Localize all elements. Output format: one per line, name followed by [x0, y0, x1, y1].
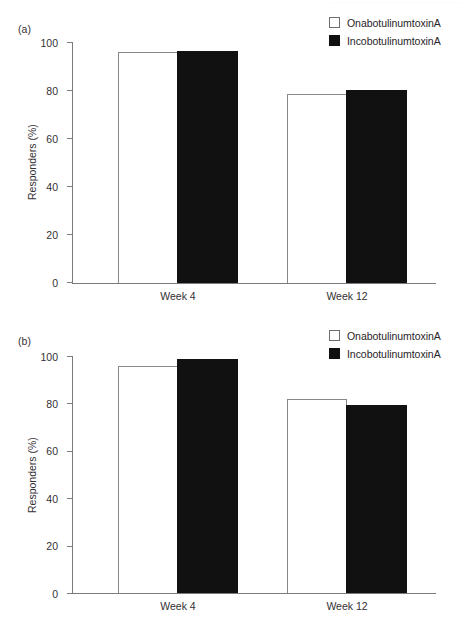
scan-artifact-line [330, 2, 462, 3]
legend-label: OnabotulinumtoxinA [347, 17, 441, 29]
y-tick-20: 20 [67, 234, 72, 235]
y-tick-label: 100 [40, 351, 58, 363]
y-tick-100: 100 [67, 356, 72, 357]
legend-item-onabotulinumtoxina: OnabotulinumtoxinA [329, 328, 441, 343]
y-tick-label: 60 [46, 133, 58, 145]
chart-panel-a: (a) OnabotulinumtoxinA Incobotulinumtoxi… [0, 0, 468, 310]
plot-area-b: 100 80 60 40 20 0 [72, 356, 436, 593]
bar-week12-onabotulinumtoxina [287, 94, 347, 283]
y-tick-label: 0 [52, 277, 58, 289]
y-tick-label: 20 [46, 540, 58, 552]
open-square-swatch [329, 330, 340, 341]
x-axis-line [72, 283, 436, 284]
y-axis-label: Responders (%) [26, 124, 38, 200]
y-axis-label: Responders (%) [26, 437, 38, 513]
y-axis-line [72, 356, 73, 593]
y-tick-label: 100 [40, 37, 58, 49]
y-tick-label: 20 [46, 229, 58, 241]
x-category-label-week-4: Week 4 [160, 600, 195, 612]
y-tick-label: 80 [46, 85, 58, 97]
y-tick-label: 40 [46, 493, 58, 505]
bar-week4-onabotulinumtoxina [118, 52, 178, 283]
y-axis-line [72, 42, 73, 283]
y-tick-label: 0 [52, 588, 58, 600]
y-tick-80: 80 [67, 403, 72, 404]
plot-area-a: 100 80 60 40 20 0 [72, 42, 436, 283]
open-square-swatch [329, 17, 340, 28]
x-axis-line [72, 593, 436, 594]
legend-label: OnabotulinumtoxinA [347, 330, 441, 342]
y-tick-100: 100 [67, 42, 72, 43]
bar-week4-incobotulinumtoxina [177, 359, 238, 593]
y-tick-60: 60 [67, 138, 72, 139]
panel-a-label: (a) [18, 23, 31, 35]
y-tick-0: 0 [67, 282, 72, 283]
y-tick-label: 60 [46, 445, 58, 457]
x-category-label-week-12: Week 12 [326, 290, 367, 302]
bar-week4-onabotulinumtoxina [118, 366, 178, 593]
y-tick-0: 0 [67, 593, 72, 594]
legend-item-onabotulinumtoxina: OnabotulinumtoxinA [329, 15, 441, 30]
y-tick-label: 80 [46, 398, 58, 410]
panel-b-label: (b) [18, 335, 31, 347]
y-tick-60: 60 [67, 451, 72, 452]
x-category-label-week-4: Week 4 [160, 290, 195, 302]
bar-week12-incobotulinumtoxina [346, 90, 407, 283]
y-tick-label: 40 [46, 181, 58, 193]
y-tick-40: 40 [67, 498, 72, 499]
x-category-label-week-12: Week 12 [326, 600, 367, 612]
y-tick-40: 40 [67, 186, 72, 187]
bar-week4-incobotulinumtoxina [177, 51, 238, 283]
bar-week12-incobotulinumtoxina [346, 405, 407, 593]
y-tick-80: 80 [67, 90, 72, 91]
y-tick-20: 20 [67, 546, 72, 547]
bar-week12-onabotulinumtoxina [287, 399, 347, 593]
